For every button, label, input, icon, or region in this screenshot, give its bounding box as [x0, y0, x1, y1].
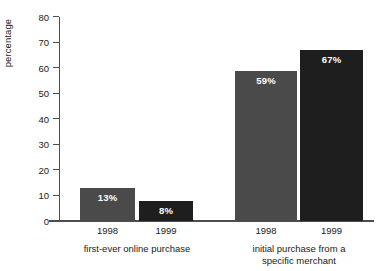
- bar-chart: percentage 0 10 20 30 40 50 60 70 80 13%: [0, 0, 384, 271]
- y-tick-label-60: 60: [3, 62, 49, 73]
- bar-group2-1999: 67%: [300, 50, 363, 221]
- y-tick-label-40: 40: [3, 113, 49, 124]
- y-tick-label-70: 70: [3, 37, 49, 48]
- bar-group2-1998: 59%: [235, 71, 297, 222]
- x-tick-label-group2-1998: 1998: [235, 225, 297, 236]
- bar-value-label: 13%: [80, 192, 135, 203]
- y-tick-label-50: 50: [3, 88, 49, 99]
- y-tick-label-10: 10: [3, 190, 49, 201]
- bar-group1-1998: 13%: [80, 188, 135, 221]
- bar-value-label: 8%: [139, 205, 193, 216]
- x-tick-label-group1-1999: 1999: [139, 225, 193, 236]
- group-label-line: specific merchant: [223, 255, 375, 267]
- bar-value-label: 67%: [300, 54, 363, 65]
- group-label-line: initial purchase from a: [223, 243, 375, 255]
- y-tick-label-0: 0: [3, 215, 49, 226]
- y-axis-line: [59, 17, 60, 221]
- y-tick-label-80: 80: [3, 11, 49, 22]
- x-tick-label-group2-1999: 1999: [300, 225, 363, 236]
- group-label-first-ever-online-purchase: first-ever online purchase: [62, 243, 212, 255]
- x-tick-label-group1-1998: 1998: [80, 225, 135, 236]
- group-label-line: first-ever online purchase: [62, 243, 212, 255]
- y-tick-label-20: 20: [3, 164, 49, 175]
- group-label-initial-purchase-specific-merchant: initial purchase from a specific merchan…: [223, 243, 375, 267]
- bar-value-label: 59%: [235, 75, 297, 86]
- y-tick-label-30: 30: [3, 139, 49, 150]
- bar-group1-1999: 8%: [139, 201, 193, 221]
